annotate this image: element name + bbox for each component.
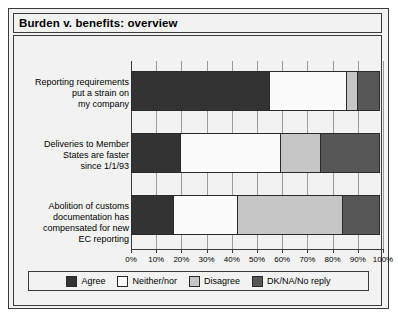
x-tick-label: 100%	[373, 255, 393, 264]
legend-item[interactable]: Neither/nor	[117, 276, 177, 287]
bar-row	[131, 195, 383, 235]
legend-label: Disagree	[204, 276, 240, 286]
x-tick	[232, 249, 233, 253]
chart-panel: Reporting requirements put a strain on m…	[13, 35, 382, 306]
x-tick	[181, 249, 182, 253]
x-tick-label: 10%	[148, 255, 164, 264]
bar-segment	[173, 195, 239, 235]
legend-item[interactable]: Agree	[66, 276, 105, 287]
chart-frame: Burden v. benefits: overview Reporting r…	[8, 8, 389, 309]
legend-item[interactable]: Disagree	[189, 276, 240, 287]
category-label: Abolition of customs documentation has c…	[17, 201, 129, 245]
legend-swatch	[117, 276, 128, 287]
x-tick	[131, 249, 132, 253]
x-tick	[383, 249, 384, 253]
x-tick-label: 80%	[325, 255, 341, 264]
x-tick-label: 70%	[299, 255, 315, 264]
x-tick	[333, 249, 334, 253]
chart-title-bar: Burden v. benefits: overview	[13, 13, 382, 33]
x-tick-label: 50%	[249, 255, 265, 264]
bar-segment	[280, 133, 320, 173]
bar-segment	[237, 195, 343, 235]
bar-segment	[180, 133, 281, 173]
chart-legend: AgreeNeither/norDisagreeDK/NA/No reply	[28, 271, 369, 291]
category-label: Deliveries to Member States are faster s…	[17, 139, 129, 172]
bar-segment	[131, 133, 181, 173]
x-tick-label: 40%	[224, 255, 240, 264]
x-tick-label: 0%	[125, 255, 137, 264]
bar-segment	[320, 133, 380, 173]
bar-segment	[342, 195, 380, 235]
x-tick	[156, 249, 157, 253]
gridline	[383, 61, 384, 249]
bar-segment	[131, 195, 174, 235]
bar-row	[131, 71, 383, 111]
legend-swatch	[66, 276, 77, 287]
legend-label: Agree	[81, 276, 105, 286]
legend-label: DK/NA/No reply	[267, 276, 331, 286]
bar-row	[131, 133, 383, 173]
x-tick	[257, 249, 258, 253]
bar-segment	[269, 71, 347, 111]
x-tick	[358, 249, 359, 253]
bar-segment	[131, 71, 270, 111]
x-tick	[307, 249, 308, 253]
legend-item[interactable]: DK/NA/No reply	[252, 276, 331, 287]
category-label: Reporting requirements put a strain on m…	[17, 77, 129, 110]
x-tick-label: 90%	[350, 255, 366, 264]
x-tick	[207, 249, 208, 253]
x-tick-label: 30%	[199, 255, 215, 264]
stacked-bar-chart: Reporting requirements put a strain on m…	[14, 36, 381, 305]
legend-swatch	[189, 276, 200, 287]
x-tick	[282, 249, 283, 253]
plot-area	[131, 61, 383, 249]
x-tick-label: 60%	[274, 255, 290, 264]
legend-label: Neither/nor	[132, 276, 177, 286]
bar-segment	[357, 71, 380, 111]
x-tick-label: 20%	[173, 255, 189, 264]
legend-swatch	[252, 276, 263, 287]
page-title: Burden v. benefits: overview	[14, 17, 178, 29]
